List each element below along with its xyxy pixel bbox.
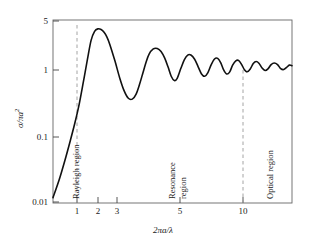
y-axis-title-exponent: 2 [13, 109, 20, 112]
y-axis-ticks [53, 21, 59, 202]
x-tick-label-2: 2 [89, 207, 107, 216]
y-axis-title-text: σ/πa [15, 112, 25, 128]
y-tick-label-0.01: 0.01 [18, 198, 48, 207]
resonance-region-label-line2: region [179, 177, 188, 199]
x-tick-label-5: 5 [171, 207, 189, 216]
rayleigh-region-label: Rayleigh region [72, 144, 81, 199]
x-axis-title: 2πa/λ [153, 226, 173, 235]
x-axis-ticks [77, 197, 243, 203]
x-tick-label-10: 10 [233, 207, 253, 216]
y-tick-label-1: 1 [30, 66, 48, 75]
x-tick-label-3: 3 [108, 207, 126, 216]
optical-region-label: Optical region [266, 150, 275, 199]
resonance-region-label-line1: Resonance [168, 162, 177, 199]
y-tick-label-5: 5 [30, 17, 48, 26]
chart-plot-area [0, 0, 309, 248]
rcs-chart-figure: 5 1 0.1 0.01 1 2 3 5 10 2πa/λ σ/πa2 Rayl… [0, 0, 309, 248]
y-tick-label-0.1: 0.1 [24, 133, 48, 142]
y-axis-title: σ/πa2 [14, 109, 25, 128]
x-axis-title-text: 2πa/λ [153, 225, 173, 235]
x-tick-label-1: 1 [68, 207, 86, 216]
